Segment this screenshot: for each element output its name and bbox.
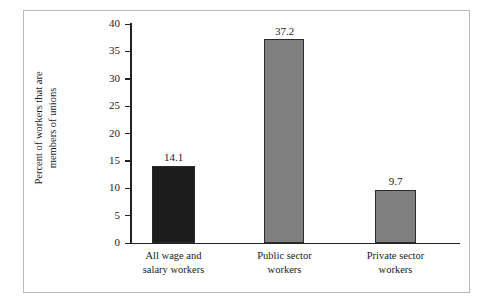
y-axis-title-line-2: members of unions <box>46 28 60 228</box>
y-tick-label-10: 10 <box>96 182 120 193</box>
category-label-public-sector-workers: Public sector workers <box>232 249 337 276</box>
category-label-line-2: workers <box>343 263 448 277</box>
y-axis-title: Percent of workers that are members of u… <box>32 28 60 228</box>
y-tick-label-5: 5 <box>96 210 120 221</box>
y-tick-label-0: 0 <box>96 237 120 248</box>
category-label-line-1: All wage and <box>121 249 226 263</box>
category-label-line-2: salary workers <box>121 263 226 277</box>
y-tick-label-20: 20 <box>96 128 120 139</box>
bar-value-all-wage-and-salary-workers: 14.1 <box>147 151 200 163</box>
y-tick-40 <box>125 24 131 25</box>
category-label-line-1: Private sector <box>343 249 448 263</box>
bar-private-sector-workers[interactable] <box>375 190 416 243</box>
bar-value-private-sector-workers: 9.7 <box>369 175 422 187</box>
y-tick-25 <box>125 106 131 107</box>
y-tick-label-40: 40 <box>96 18 120 29</box>
bar-all-wage-and-salary-workers[interactable] <box>152 166 195 243</box>
y-tick-35 <box>125 51 131 52</box>
y-tick-label-25: 25 <box>96 100 120 111</box>
category-label-line-2: workers <box>232 263 337 277</box>
y-tick-5 <box>125 215 131 216</box>
y-axis-title-line-1: Percent of workers that are <box>32 28 46 228</box>
category-label-all-wage-and-salary-workers: All wage and salary workers <box>121 249 226 276</box>
bar-chart: Percent of workers that are members of u… <box>0 0 490 304</box>
y-tick-label-35: 35 <box>96 45 120 56</box>
category-label-line-1: Public sector <box>232 249 337 263</box>
y-tick-15 <box>125 160 131 161</box>
bar-public-sector-workers[interactable] <box>264 39 304 243</box>
y-tick-20 <box>125 133 131 134</box>
y-tick-0 <box>125 243 131 244</box>
y-tick-label-15: 15 <box>96 155 120 166</box>
y-tick-30 <box>125 78 131 79</box>
y-tick-label-30: 30 <box>96 73 120 84</box>
category-label-private-sector-workers: Private sector workers <box>343 249 448 276</box>
bar-value-public-sector-workers: 37.2 <box>258 25 311 37</box>
y-tick-10 <box>125 188 131 189</box>
